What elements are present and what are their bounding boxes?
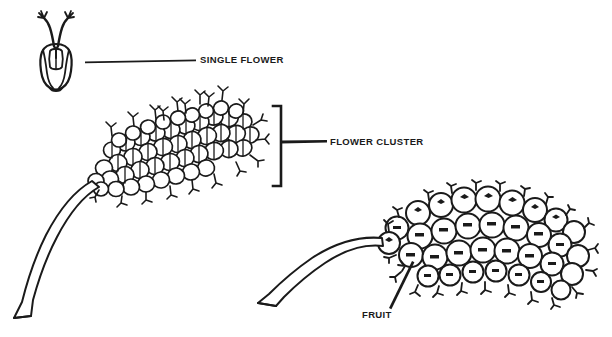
single-flower-drawing [38,11,74,91]
figure-canvas: Botanical line drawing of a flowering pl… [0,0,612,337]
flower-stem-drawing [14,181,99,318]
botanical-diagram: Botanical line drawing of a flowering pl… [0,0,612,337]
fruit-leader-line [389,261,414,309]
flower-cluster-drawing [88,86,269,207]
label-flower-cluster: FLOWER CLUSTER [330,136,424,147]
fruit-stem-drawing [258,238,383,306]
label-fruit: FRUIT [362,309,392,320]
fruit-cluster-drawing [378,180,598,309]
flower-cluster-bracket [273,106,281,186]
single-flower-leader-line [85,60,196,64]
flower-cluster-leader-line [281,140,327,144]
label-single-flower: SINGLE FLOWER [200,54,284,65]
